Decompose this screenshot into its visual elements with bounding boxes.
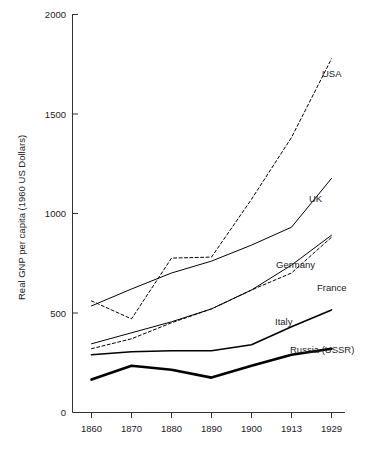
x-tick-label-1860: 1860	[81, 423, 102, 434]
y-tick-labels: 2000 1500 1000 500 0	[45, 9, 66, 418]
series-label-usa: USA	[322, 68, 342, 79]
y-tick-label-0: 0	[61, 407, 66, 418]
gnp-per-capita-line-chart: 2000 1500 1000 500 0 Real GNP per capita…	[0, 0, 391, 459]
x-tick-marks	[92, 413, 332, 419]
y-tick-label-500: 500	[50, 308, 66, 319]
series-layer	[92, 59, 332, 380]
series-line-usa	[92, 59, 332, 319]
series-label-italy: Italy	[275, 316, 293, 327]
series-label-germany: Germany	[276, 259, 315, 270]
y-tick-label-2000: 2000	[45, 9, 66, 20]
chart-canvas: 2000 1500 1000 500 0 Real GNP per capita…	[0, 0, 391, 459]
y-axis-title: Real GNP per capita (1960 US Dollars)	[16, 135, 27, 300]
x-tick-label-1929: 1929	[321, 423, 342, 434]
x-tick-label-1890: 1890	[201, 423, 222, 434]
x-tick-label-1870: 1870	[121, 423, 142, 434]
x-tick-labels: 1860 1870 1880 1890 1900 1913 1929	[81, 423, 342, 434]
y-tick-label-1000: 1000	[45, 208, 66, 219]
series-line-uk	[92, 178, 332, 306]
series-label-france: France	[317, 282, 347, 293]
x-tick-label-1913: 1913	[281, 423, 302, 434]
y-tick-marks	[73, 15, 79, 413]
series-line-france	[92, 237, 332, 349]
x-tick-label-1880: 1880	[161, 423, 182, 434]
series-label-russia-ussr: Russia (USSR)	[290, 344, 354, 355]
series-label-uk: UK	[309, 193, 323, 204]
y-tick-label-1500: 1500	[45, 109, 66, 120]
series-annotation-layer: USAUKGermanyFranceItalyRussia (USSR)	[275, 68, 354, 355]
x-tick-label-1900: 1900	[241, 423, 262, 434]
series-line-germany	[92, 235, 332, 344]
